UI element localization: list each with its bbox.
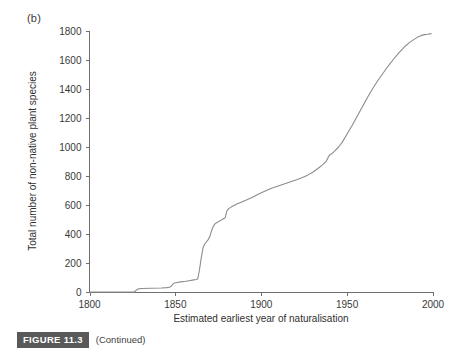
y-tick-label: 1000 — [59, 142, 82, 153]
y-tick-label: 1200 — [59, 113, 82, 124]
y-tick-label: 1400 — [59, 84, 82, 95]
figure-container: (b) 020040060080010001200140016001800 18… — [0, 0, 452, 364]
figure-caption: FIGURE 11.3 (Continued) — [17, 332, 145, 348]
chart-plot: 020040060080010001200140016001800 180018… — [0, 0, 452, 330]
y-tick-label: 0 — [76, 287, 82, 298]
y-axis-title: Total number of non-native plant species — [27, 71, 38, 251]
x-axis-title: Estimated earliest year of naturalisatio… — [173, 313, 348, 324]
x-axis-ticks: 18001850190019502000 — [78, 292, 444, 310]
x-tick-label: 1950 — [336, 299, 359, 310]
axes-group — [90, 31, 434, 293]
y-tick-label: 1600 — [59, 55, 82, 66]
x-tick-label: 1850 — [164, 299, 187, 310]
x-tick-label: 1900 — [250, 299, 273, 310]
y-tick-label: 200 — [65, 258, 82, 269]
y-tick-label: 1800 — [59, 26, 82, 37]
x-tick-label: 1800 — [78, 299, 101, 310]
figure-caption-text: (Continued) — [96, 334, 146, 345]
figure-number-badge: FIGURE 11.3 — [17, 332, 89, 348]
data-series-line — [90, 34, 432, 292]
y-axis-ticks: 020040060080010001200140016001800 — [59, 26, 89, 298]
y-tick-label: 600 — [65, 200, 82, 211]
x-tick-label: 2000 — [422, 299, 445, 310]
y-tick-label: 800 — [65, 171, 82, 182]
y-tick-label: 400 — [65, 229, 82, 240]
